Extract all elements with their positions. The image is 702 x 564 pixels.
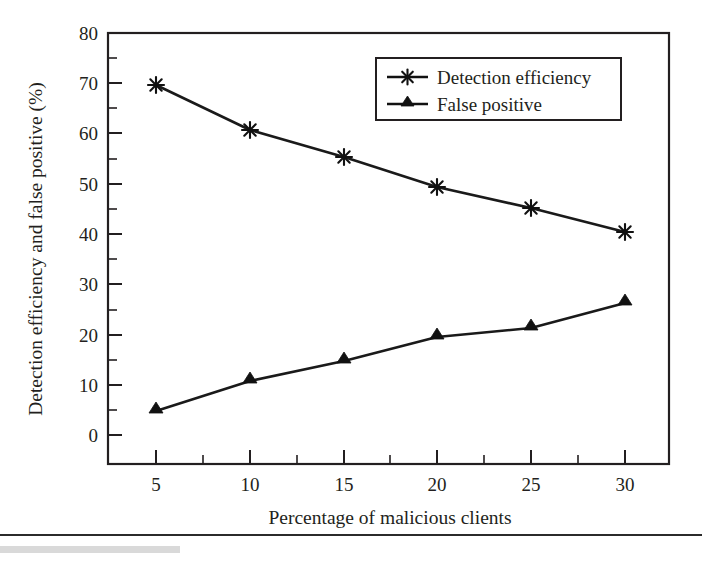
- marker-triangle: [430, 328, 444, 339]
- page-divider-rule: [0, 534, 702, 536]
- y-tick-label: 10: [79, 375, 98, 396]
- chart-figure: 0 10 20 30 40 50 60 70 80 5 10 15 20 25 …: [0, 0, 702, 564]
- y-tick-label: 40: [79, 224, 98, 245]
- x-tick-label: 25: [522, 474, 541, 495]
- marker-star: [429, 179, 445, 195]
- x-axis-tick-labels: 5 10 15 20 25 30: [151, 474, 634, 495]
- series-false-positive: [149, 294, 632, 413]
- x-tick-label: 30: [616, 474, 635, 495]
- x-tick-label: 5: [151, 474, 161, 495]
- marker-triangle: [524, 319, 538, 330]
- x-axis-title: Percentage of malicious clients: [268, 507, 511, 528]
- y-tick-label: 60: [79, 123, 98, 144]
- marker-star: [336, 149, 352, 165]
- line-chart: 0 10 20 30 40 50 60 70 80 5 10 15 20 25 …: [0, 0, 702, 564]
- y-tick-label: 30: [79, 274, 98, 295]
- y-tick-label: 0: [89, 425, 99, 446]
- legend-marker-star: [400, 70, 415, 85]
- legend-label-detection-efficiency: Detection efficiency: [437, 67, 592, 88]
- x-tick-label: 15: [335, 474, 354, 495]
- series-line-false-positive: [156, 303, 625, 411]
- marker-star: [242, 122, 258, 138]
- chart-legend: Detection efficiency False positive: [376, 58, 621, 120]
- marker-triangle: [618, 294, 632, 305]
- x-axis-minor-ticks: [203, 455, 578, 464]
- y-axis-major-ticks: [108, 33, 122, 435]
- y-axis-title: Detection efficiency and false positive …: [25, 82, 47, 416]
- x-tick-label: 10: [241, 474, 260, 495]
- marker-triangle: [149, 402, 163, 413]
- y-tick-label: 70: [79, 73, 98, 94]
- legend-label-false-positive: False positive: [437, 94, 542, 115]
- y-tick-label: 20: [79, 325, 98, 346]
- x-tick-label: 20: [428, 474, 447, 495]
- marker-star: [523, 200, 539, 216]
- marker-triangle: [337, 352, 351, 363]
- page-scan-artifact: [0, 546, 180, 553]
- marker-triangle: [243, 372, 257, 383]
- y-axis-tick-labels: 0 10 20 30 40 50 60 70 80: [79, 23, 98, 446]
- y-tick-label: 80: [79, 23, 98, 44]
- marker-star: [617, 224, 633, 240]
- marker-star: [148, 77, 164, 93]
- y-tick-label: 50: [79, 174, 98, 195]
